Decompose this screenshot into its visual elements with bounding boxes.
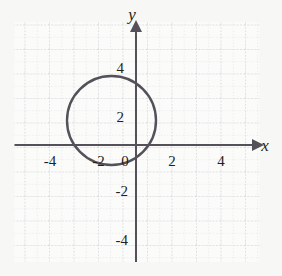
y-axis-label: y (126, 5, 136, 24)
graph-figure: x y -4 -2 2 4 0 4 2 -2 -4 (0, 0, 282, 276)
x-tick-label-minus4: -4 (44, 153, 57, 169)
x-axis-label: x (260, 136, 269, 155)
y-tick-label-minus4: -4 (116, 232, 129, 248)
x-tick-label-4: 4 (217, 153, 225, 169)
coordinate-plane-svg: x y -4 -2 2 4 0 4 2 -2 -4 (0, 0, 282, 276)
x-tick-label-2: 2 (168, 153, 176, 169)
origin-label: 0 (121, 153, 129, 169)
y-tick-label-4: 4 (117, 60, 125, 76)
y-tick-label-minus2: -2 (116, 183, 129, 199)
y-tick-label-2: 2 (117, 109, 125, 125)
x-tick-label-minus2: -2 (92, 153, 105, 169)
